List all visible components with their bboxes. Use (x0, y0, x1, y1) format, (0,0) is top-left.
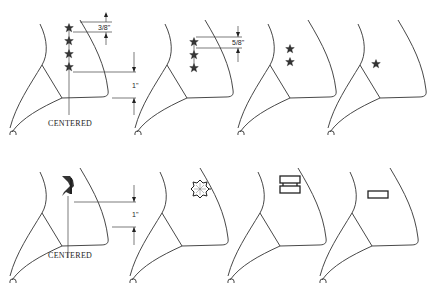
panel-one-star (328, 20, 426, 137)
star-icon (372, 60, 381, 68)
dimension-5-8: 5/8" (232, 39, 245, 46)
dimension-1-inch: 1" (132, 211, 139, 218)
insignia-placement-diagram: 3/8" 1" CENTERED 5/8" (0, 0, 427, 285)
panel-four-stars: 3/8" 1" CENTERED (10, 12, 139, 137)
panel-eagle: 1" CENTERED (10, 168, 139, 285)
centered-caption: CENTERED (48, 119, 92, 128)
panel-two-stars (238, 20, 336, 137)
panel-one-bar (320, 168, 418, 285)
eagle-icon (62, 176, 74, 196)
panel-two-bars (228, 168, 326, 285)
star-icon (286, 45, 295, 66)
lieutenant-bar-icon (368, 191, 388, 198)
captain-bars-icon (280, 176, 300, 193)
panel-three-stars: 5/8" (135, 20, 245, 137)
panel-oak-leaf (130, 168, 228, 285)
centered-caption: CENTERED (48, 251, 92, 260)
dimension-1-inch: 1" (132, 82, 139, 89)
dimension-3-8: 3/8" (98, 24, 111, 31)
